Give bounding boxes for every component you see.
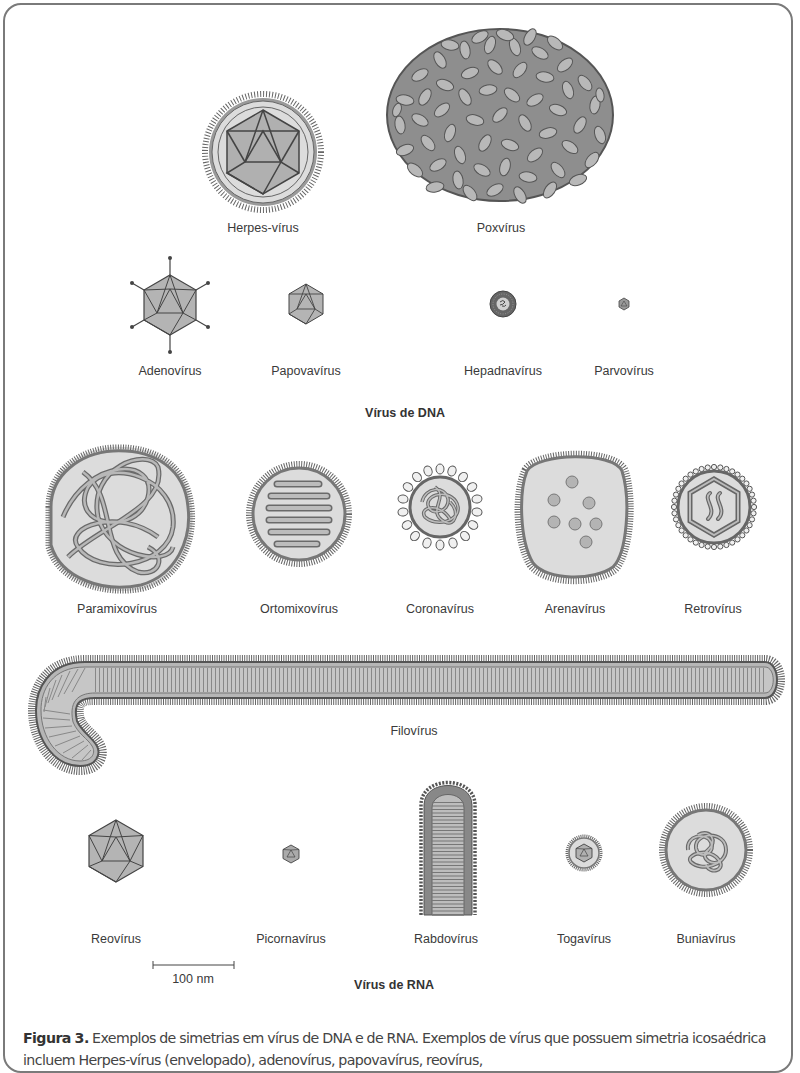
reovirus-icon xyxy=(89,820,143,882)
rabdovirus-icon xyxy=(421,783,475,916)
section-title-dna: Vírus de DNA xyxy=(365,406,445,420)
arenavirus-icon xyxy=(518,454,630,580)
label-togavirus: Togavírus xyxy=(557,932,611,946)
label-filovirus: Filovírus xyxy=(390,724,437,738)
coronavirus-icon xyxy=(397,464,482,550)
label-poxvirus: Poxvírus xyxy=(477,221,526,235)
papovavirus-icon xyxy=(289,284,323,324)
filovirus-icon xyxy=(33,660,780,770)
label-parvovirus: Parvovírus xyxy=(594,364,654,378)
label-coronavirus: Coronavírus xyxy=(406,602,474,616)
label-ortomixovirus: Ortomixovírus xyxy=(260,602,338,616)
adenovirus-icon xyxy=(130,256,210,354)
label-retrovirus: Retrovírus xyxy=(684,602,742,616)
picornavirus-icon xyxy=(283,845,299,863)
label-rabdovirus: Rabdovírus xyxy=(414,932,478,946)
label-herpes-virus: Herpes-vírus xyxy=(227,221,299,235)
figure-caption: Figura 3. Exemplos de simetrias em vírus… xyxy=(23,1027,783,1071)
togavirus-icon xyxy=(567,836,601,870)
herpes-virus-icon xyxy=(205,94,321,210)
caption-label: Figura 3. xyxy=(23,1030,89,1046)
scale-bar-label: 100 nm xyxy=(172,972,214,986)
buniavirus-icon xyxy=(662,806,750,894)
section-title-rna: Vírus de RNA xyxy=(354,978,434,992)
parvovirus-icon xyxy=(619,298,629,310)
label-picornavirus: Picornavírus xyxy=(256,932,325,946)
label-adenovirus: Adenovírus xyxy=(138,364,201,378)
label-paramixovirus: Paramixovírus xyxy=(77,602,157,616)
caption-text: Exemplos de simetrias em vírus de DNA e … xyxy=(23,1030,766,1068)
label-buniavirus: Buniavírus xyxy=(676,932,735,946)
poxvirus-icon xyxy=(387,27,613,206)
hepadnavirus-icon xyxy=(490,291,516,317)
label-reovirus: Reovírus xyxy=(91,932,141,946)
ortomixovirus-icon xyxy=(249,464,349,564)
paramixovirus-icon xyxy=(48,447,193,591)
scale-bar xyxy=(153,961,234,969)
retrovirus-icon xyxy=(671,464,756,549)
label-hepadnavirus: Hepadnavírus xyxy=(464,364,542,378)
label-arenavirus: Arenavírus xyxy=(545,602,605,616)
label-papovavirus: Papovavírus xyxy=(271,364,340,378)
